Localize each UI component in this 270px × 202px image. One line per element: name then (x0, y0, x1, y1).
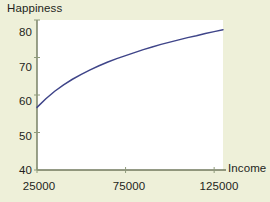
chart-figure: Happiness Income 80 70 60 50 40 25000 75… (0, 0, 270, 202)
happiness-income-curve (37, 30, 223, 108)
axis-group (37, 20, 226, 170)
chart-canvas (0, 0, 270, 202)
